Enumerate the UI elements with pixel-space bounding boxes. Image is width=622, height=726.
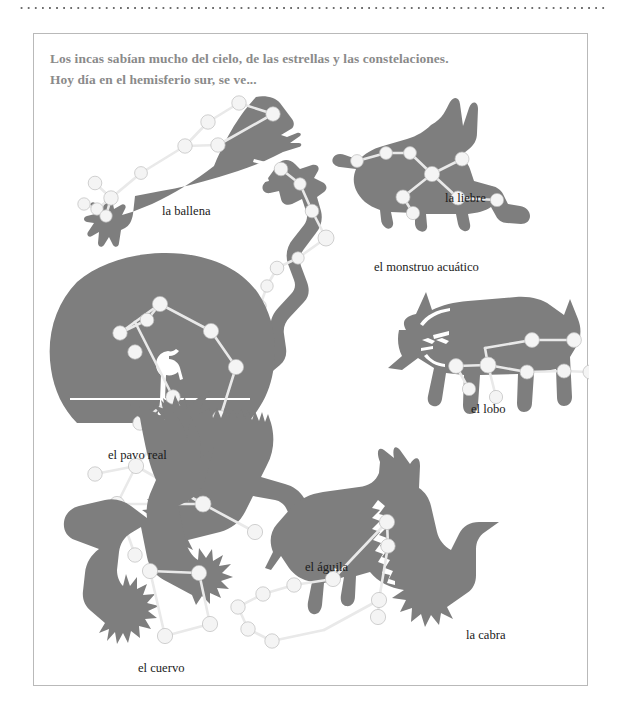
constellation-lobo: [388, 292, 589, 414]
worksheet-page: Los incas sabían mucho del cielo, de las…: [0, 0, 622, 726]
constellation-ballena: [78, 96, 301, 247]
worksheet-frame: Los incas sabían mucho del cielo, de las…: [33, 33, 588, 686]
label-ballena: la ballena: [162, 204, 211, 219]
label-liebre: la liebre: [445, 191, 486, 206]
label-cabra: la cabra: [466, 628, 506, 643]
label-aguila: el águila: [305, 560, 348, 575]
label-lobo: el lobo: [471, 402, 506, 417]
top-dotted-rule: [18, 6, 606, 10]
constellation-liebre: [332, 98, 530, 232]
label-monstruo-acuatico: el monstruo acuático: [374, 260, 479, 275]
constellation-cabra: [231, 447, 499, 648]
label-cuervo: el cuervo: [138, 661, 185, 676]
label-pavo-real: el pavo real: [108, 448, 167, 463]
constellations-illustration: .sil{fill:#7e7e7e;} .cut{fill:#ffffff;} …: [34, 34, 589, 687]
